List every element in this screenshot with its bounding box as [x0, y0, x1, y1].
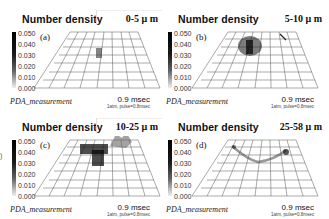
size-range: 10-25 μ m [116, 121, 158, 132]
colorbar [168, 32, 172, 88]
conditions-label: 1atm, pulse=0.8msec [107, 212, 150, 217]
time-label: 0.9 msec [118, 95, 150, 104]
panel-title: Number density [178, 121, 259, 133]
panel-label: (c) [40, 140, 50, 150]
source-label: PDA_measurement [166, 97, 228, 106]
size-range: 0-5 μ m [126, 13, 158, 24]
panel-b: Number density 5-10 μ m 0.050 0.040 0.03… [164, 0, 328, 109]
panel-label: (d) [196, 140, 207, 150]
panel-label: (b) [196, 32, 207, 42]
colorbar [12, 32, 16, 88]
panel-d: Number density 25-58 μ m 0.050 0.040 0.0… [164, 108, 328, 217]
source-label: PDA_measurement [10, 97, 72, 106]
time-label: 0.9 msec [118, 203, 150, 212]
surface-plot [188, 28, 320, 90]
panel-label: (a) [40, 32, 50, 42]
panel-title: Number density [22, 121, 103, 133]
panel-c: Number density 10-25 μ m 0.050 0.040 0.0… [0, 108, 164, 217]
size-range: 25-58 μ m [280, 121, 322, 132]
source-label: PDA_measurement [10, 205, 72, 214]
panel-title: Number density [22, 13, 103, 25]
size-range: 5-10 μ m [285, 13, 322, 24]
colorbar [168, 140, 172, 196]
panel-title: Number density [178, 13, 259, 25]
surface-plot [188, 136, 320, 198]
time-label: 0.9 msec [282, 203, 314, 212]
panel-a: Number density 0-5 μ m 0.050 0.040 0.030… [0, 0, 164, 109]
conditions-label: 1atm, pulse=0.8msec [271, 212, 314, 217]
colorbar [12, 140, 16, 196]
source-label: PDA_measurement [166, 205, 228, 214]
time-label: 0.9 msec [282, 95, 314, 104]
